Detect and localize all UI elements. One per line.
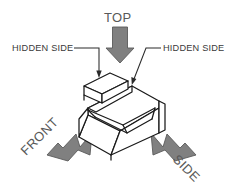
block-right-wall <box>159 101 165 133</box>
diagram-canvas: TOP FRONT SIDE HIDDEN SIDE HIDDEN SIDE <box>0 0 243 192</box>
side-view-label-group: SIDE <box>170 152 203 185</box>
top-view-label: TOP <box>104 10 132 25</box>
hidden-side-right-label: HIDDEN SIDE <box>163 43 224 53</box>
side-view-arrow <box>151 133 196 161</box>
top-view-arrow <box>106 27 134 63</box>
technical-drawing-diagram: TOP FRONT SIDE HIDDEN SIDE HIDDEN SIDE <box>0 0 243 192</box>
hidden-side-left-leader <box>74 48 102 78</box>
hidden-side-left-label: HIDDEN SIDE <box>12 43 73 53</box>
side-view-label: SIDE <box>170 152 203 185</box>
hidden-side-right-leader <box>131 48 161 85</box>
